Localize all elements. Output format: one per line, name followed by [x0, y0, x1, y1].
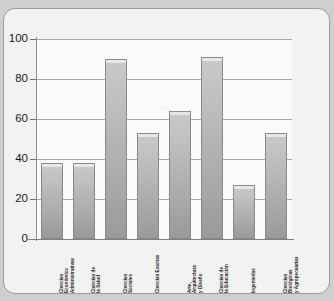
bar-top-highlight	[42, 164, 62, 167]
bar[interactable]	[169, 111, 191, 239]
gridline-40	[36, 159, 292, 160]
bar[interactable]	[233, 185, 255, 239]
y-tick-label-60: 60	[4, 113, 28, 125]
x-axis-label: Ciencias de la Educación	[219, 241, 230, 293]
x-axis-label: Arte, Arquitectura y Diseño	[187, 241, 203, 293]
chart-card: 020406080100 Ciencias Económico Administ…	[3, 8, 330, 294]
x-axis-label: Ciencias Sociales	[123, 241, 134, 293]
bar[interactable]	[73, 163, 95, 239]
bar[interactable]	[105, 59, 127, 239]
bar-top-highlight	[74, 164, 94, 167]
gridline-100	[36, 39, 292, 40]
gridline-60	[36, 119, 292, 120]
y-tick-label-100: 100	[4, 33, 28, 45]
scan-artifact-dot	[162, 107, 163, 108]
x-axis-label: Ciencias Exactas	[155, 241, 160, 293]
bar[interactable]	[201, 57, 223, 239]
x-axis-label: Ciencias de la Salud	[91, 241, 102, 293]
y-tick-label-20: 20	[4, 193, 28, 205]
bar-top-highlight	[202, 58, 222, 61]
bar-top-highlight	[138, 134, 158, 137]
bar-top-highlight	[234, 186, 254, 189]
bar-top-highlight	[266, 134, 286, 137]
bar-top-highlight	[106, 60, 126, 63]
x-axis-label: Ciencias Económico Administrativas	[59, 241, 75, 293]
y-tick-label-40: 40	[4, 153, 28, 165]
chart-plot-wrapper: 020406080100 Ciencias Económico Administ…	[4, 9, 330, 294]
y-tick-label-80: 80	[4, 73, 28, 85]
gridline-80	[36, 79, 292, 80]
x-axis-line	[28, 239, 294, 240]
x-axis-label: Ingenierías	[251, 241, 256, 293]
y-tick-label-0: 0	[4, 233, 28, 245]
x-axis-label-group: Ciencias Económico AdministrativasCienci…	[36, 241, 292, 294]
bar[interactable]	[265, 133, 287, 239]
bar[interactable]	[137, 133, 159, 239]
bar-top-highlight	[170, 112, 190, 115]
bar[interactable]	[41, 163, 63, 239]
x-axis-label: Ciencias Biológicas y Agropecuarias	[283, 241, 299, 293]
y-axis-line	[36, 37, 37, 241]
